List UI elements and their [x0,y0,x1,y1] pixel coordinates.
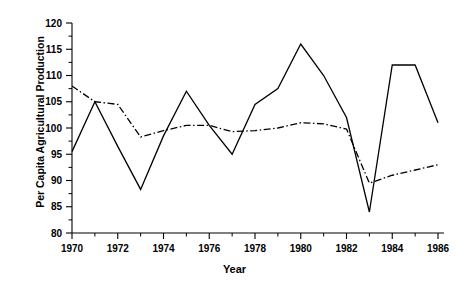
x-tick-label: 1978 [244,243,267,254]
y-tick-label: 80 [51,228,63,239]
x-tick-label: 1972 [107,243,130,254]
series-line-dash-dot-series [72,86,438,183]
x-tick-label: 1982 [335,243,358,254]
y-axis-ticks: 80859095100105110115120 [45,18,72,239]
x-axis-ticks: 197019721974197619781980198219841986 [61,233,450,254]
y-tick-label: 95 [51,149,63,160]
x-tick-label: 1986 [427,243,450,254]
series-line-solid-series [72,44,438,212]
chart-container: Per Capita Agricultural Production Year … [0,0,469,294]
x-tick-label: 1970 [61,243,84,254]
y-tick-label: 120 [45,18,62,29]
y-tick-label: 85 [51,201,63,212]
y-tick-label: 90 [51,175,63,186]
x-tick-label: 1980 [290,243,313,254]
x-tick-label: 1976 [198,243,221,254]
data-series-layer [72,44,438,212]
y-tick-label: 115 [46,44,63,55]
plot-area: 80859095100105110115120 1970197219741976… [0,0,469,294]
x-tick-label: 1974 [152,243,175,254]
x-tick-label: 1984 [381,243,404,254]
y-tick-label: 100 [45,123,62,134]
y-tick-label: 105 [45,96,62,107]
y-tick-label: 110 [46,70,63,81]
